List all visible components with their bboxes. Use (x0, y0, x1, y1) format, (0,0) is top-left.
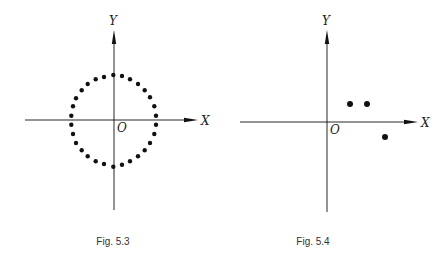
data-point (128, 159, 132, 163)
data-point (94, 159, 98, 163)
figure-caption: Fig. 5.4 (296, 236, 330, 247)
data-point (80, 88, 84, 92)
data-point (69, 114, 73, 118)
y-axis-arrowhead-icon (325, 30, 329, 44)
figure-canvas: X Y O Fig. 5.3 X Y O Fig. 5.4 (0, 0, 448, 253)
data-point (154, 123, 158, 127)
x-axis-label: X (200, 114, 210, 128)
x-axis-label: X (420, 116, 430, 130)
x-axis-arrowhead-icon (404, 120, 418, 124)
data-point (71, 132, 75, 136)
data-point (152, 132, 156, 136)
data-point (94, 77, 98, 81)
data-point (74, 96, 78, 100)
data-point (102, 162, 106, 166)
y-axis-label: Y (322, 14, 331, 28)
data-point (143, 88, 147, 92)
data-point (347, 101, 353, 107)
data-point (136, 82, 140, 86)
data-point (111, 73, 115, 77)
data-point (148, 95, 152, 99)
data-point (128, 77, 132, 81)
data-point (152, 104, 156, 108)
data-points-scatter (347, 101, 388, 140)
data-point (111, 165, 115, 169)
x-axis-arrowhead-icon (184, 118, 198, 122)
figure-5-4: X Y O Fig. 5.4 (240, 14, 430, 247)
data-point (86, 82, 90, 86)
data-point (364, 101, 370, 107)
data-point (69, 123, 73, 127)
data-point (120, 74, 124, 78)
data-point (74, 141, 78, 145)
origin-label: O (117, 121, 127, 135)
data-point (80, 148, 84, 152)
figure-caption: Fig. 5.3 (96, 236, 130, 247)
data-point (143, 148, 147, 152)
data-point (382, 134, 388, 140)
origin-label: O (330, 123, 340, 137)
y-axis-arrowhead-icon (112, 30, 116, 44)
data-point (102, 75, 106, 79)
data-point (136, 154, 140, 158)
data-point (71, 104, 75, 108)
data-point (154, 114, 158, 118)
y-axis-label: Y (109, 14, 118, 28)
data-point (120, 163, 124, 167)
data-point (86, 154, 90, 158)
data-point (148, 141, 152, 145)
figure-5-3: X Y O Fig. 5.3 (25, 14, 210, 247)
